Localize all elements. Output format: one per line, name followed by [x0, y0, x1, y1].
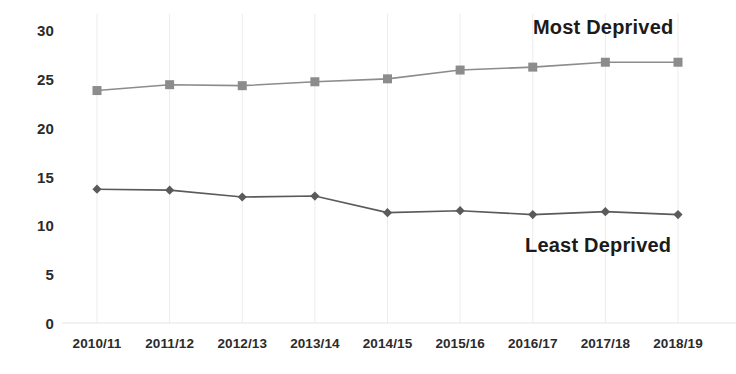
x-axis-tick-label: 2012/13 — [218, 336, 268, 351]
series-label-least-deprived: Least Deprived — [525, 234, 671, 257]
x-axis-tick-label: 2017/18 — [581, 336, 631, 351]
x-axis-tick-label: 2016/17 — [508, 336, 558, 351]
x-axis-tick-label: 2014/15 — [363, 336, 413, 351]
line-chart: 051015202530 2010/112011/122012/132013/1… — [0, 0, 736, 374]
series-label-most-deprived: Most Deprived — [533, 16, 673, 39]
x-axis-tick-label: 2015/16 — [435, 336, 485, 351]
x-axis-tick-label: 2011/12 — [145, 336, 194, 351]
x-axis-tick-label: 2010/11 — [73, 336, 122, 351]
x-axis-tick-label: 2018/19 — [653, 336, 703, 351]
x-axis: 2010/112011/122012/132013/142014/152015/… — [0, 0, 736, 374]
x-axis-tick-label: 2013/14 — [290, 336, 340, 351]
